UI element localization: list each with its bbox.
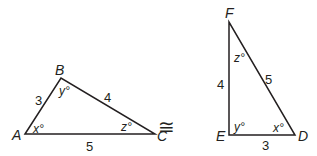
congruence-symbol: ≅ (158, 115, 175, 139)
angle-e-label: y° (233, 120, 245, 134)
triangle-abc-shape (25, 78, 155, 134)
angle-d-label: x° (272, 121, 284, 135)
angle-f-label: z° (233, 51, 245, 65)
triangle-def-shape (229, 22, 295, 135)
side-ed-label: 3 (262, 138, 269, 153)
side-fd-label: 5 (265, 72, 272, 87)
triangle-def: F E D 4 5 3 z° y° x° (216, 5, 308, 153)
side-ef-label: 4 (217, 77, 224, 92)
congruent-triangles-diagram: A B C 3 4 5 x° y° z° ≅ F E D 4 5 3 z° y°… (0, 0, 317, 156)
angle-c-label: z° (120, 120, 132, 134)
vertex-e-label: E (216, 128, 226, 144)
vertex-a-label: A (11, 127, 21, 143)
triangle-abc: A B C 3 4 5 x° y° z° (11, 62, 168, 154)
angle-a-label: x° (32, 122, 44, 136)
side-ac-label: 5 (86, 139, 93, 154)
side-ab-label: 3 (35, 93, 42, 108)
angle-b-label: y° (58, 84, 70, 98)
side-bc-label: 4 (104, 90, 111, 105)
vertex-b-label: B (55, 62, 64, 78)
vertex-d-label: D (298, 128, 308, 144)
vertex-f-label: F (225, 5, 235, 21)
